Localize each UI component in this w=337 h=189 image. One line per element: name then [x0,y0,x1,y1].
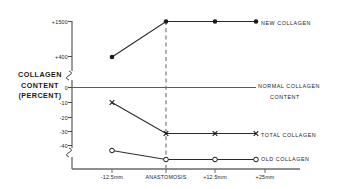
data-point-new-collagen-4 [254,19,259,24]
data-point-new-collagen-2 [164,19,169,24]
data-point-old-collagen-1 [110,148,115,153]
data-point-total-collagen-1 [110,100,115,105]
data-point-old-collagen-2 [164,157,169,162]
series-new-collagen [110,19,259,59]
data-point-old-collagen-4 [254,157,259,162]
y-axis [67,21,73,169]
series-old-collagen [110,148,259,162]
collagen-content-chart: COLLAGEN CONTENT (PERCENT) +1500 +400 0 … [0,0,337,189]
series-total-collagen [110,100,259,136]
data-point-new-collagen-3 [213,19,218,24]
x-axis [72,169,300,173]
data-point-new-collagen-1 [110,55,115,60]
data-point-old-collagen-3 [213,157,218,162]
chart-plot-area [0,0,337,189]
y-axis-break-lower [67,148,72,157]
y-axis-break-upper [67,71,72,80]
